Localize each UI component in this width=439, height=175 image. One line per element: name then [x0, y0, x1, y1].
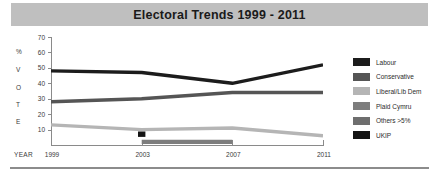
x-tick-label-1999: 1999	[37, 151, 67, 158]
y-axis-letter-e: E	[16, 118, 26, 125]
legend-swatch-labour	[353, 58, 370, 66]
legend-item-liberal-lib-dem: Liberal/Lib Dem	[353, 84, 437, 99]
y-tick-label-40: 40	[31, 80, 45, 87]
y-tick-label-60: 60	[31, 49, 45, 56]
y-axis-letter-t: T	[16, 101, 26, 108]
legend-swatch-conservative	[353, 73, 370, 81]
series-line-conservative	[51, 93, 323, 102]
legend-swatch-others	[353, 117, 370, 125]
x-axis-line	[51, 145, 323, 146]
y-tick-label-20: 20	[31, 111, 45, 118]
legend-item-ukip: UKIP	[353, 128, 437, 143]
chart-title-bar: Electoral Trends 1999 - 2011	[11, 3, 428, 26]
legend-item-plaid-cymru: Plaid Cymru	[353, 99, 437, 114]
legend-item-conservative: Conservative	[353, 70, 437, 85]
legend-swatch-ukip	[353, 131, 370, 139]
series-marker-ukip	[138, 132, 145, 137]
y-axis-letter-o: O	[16, 84, 26, 91]
legend-label-liberal-lib-dem: Liberal/Lib Dem	[376, 88, 422, 95]
plot-area	[51, 37, 323, 145]
y-tick-label-50: 50	[31, 64, 45, 71]
legend-label-plaid-cymru: Plaid Cymru	[376, 103, 411, 110]
y-tick-label-10: 10	[31, 126, 45, 133]
x-tick-mark-2011	[323, 140, 324, 146]
y-axis-letter-v: V	[16, 66, 26, 73]
legend-item-labour: Labour	[353, 55, 437, 70]
y-tick-label-70: 70	[31, 34, 45, 41]
series-line-labour	[51, 65, 323, 84]
legend-label-ukip: UKIP	[376, 132, 391, 139]
legend-label-others: Others >5%	[376, 117, 411, 124]
series-line-liberal-lib-dem	[51, 125, 323, 136]
chart-legend: Labour Conservative Liberal/Lib Dem Plai…	[353, 55, 437, 143]
x-axis-caption: YEAR	[14, 151, 33, 158]
y-tick-label-30: 30	[31, 95, 45, 102]
page-title: Electoral Trends 1999 - 2011	[133, 8, 305, 22]
legend-swatch-plaid-cymru	[353, 102, 370, 110]
x-tick-label-2011: 2011	[309, 151, 339, 158]
legend-item-others: Others >5%	[353, 113, 437, 128]
electoral-trends-chart: Electoral Trends 1999 - 2011 % V O T E 7…	[0, 0, 439, 175]
legend-label-labour: Labour	[376, 59, 396, 66]
legend-swatch-liberal-lib-dem	[353, 87, 370, 95]
x-tick-label-2003: 2003	[128, 151, 158, 158]
bottom-divider	[10, 167, 429, 169]
legend-label-conservative: Conservative	[376, 73, 414, 80]
y-axis-letter-percent: %	[16, 48, 26, 55]
x-tick-label-2007: 2007	[218, 151, 248, 158]
